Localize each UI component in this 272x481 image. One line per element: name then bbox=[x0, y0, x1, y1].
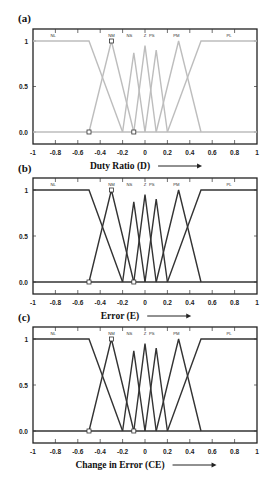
mf-label-ps: PS bbox=[149, 182, 155, 187]
mf-pl bbox=[167, 339, 257, 431]
mf-nl bbox=[33, 339, 123, 431]
y-tick-label: 0.0 bbox=[19, 279, 28, 286]
mf-label-nm: NM bbox=[108, 182, 115, 187]
mf-nm bbox=[89, 41, 134, 132]
x-axis-title: Change in Error (CE) bbox=[75, 460, 164, 471]
mf-label-pl: PL bbox=[226, 33, 232, 38]
mf-pl bbox=[167, 190, 257, 282]
x-tick-label: 0 bbox=[143, 149, 147, 156]
mf-nl bbox=[33, 41, 123, 132]
mf-label-ns: NS bbox=[126, 33, 132, 38]
x-tick-label: -0.2 bbox=[117, 299, 129, 306]
x-tick-label: -0.4 bbox=[95, 149, 107, 156]
mf-nm bbox=[89, 339, 134, 431]
x-tick-label: 1 bbox=[255, 149, 259, 156]
mf-label-nl: NL bbox=[50, 331, 56, 336]
marker-square-icon bbox=[87, 429, 91, 433]
panel-label: (a) bbox=[18, 12, 31, 25]
y-tick-label: 0.0 bbox=[19, 129, 28, 136]
y-tick-label: 0.5 bbox=[19, 83, 28, 90]
x-tick-label: 0.6 bbox=[208, 149, 217, 156]
x-tick-label: -0.6 bbox=[72, 448, 84, 455]
mf-label-pm: PM bbox=[173, 182, 180, 187]
arrow-head-icon bbox=[186, 314, 191, 319]
marker-square-icon bbox=[132, 280, 136, 284]
x-tick-label: 0 bbox=[143, 299, 147, 306]
mf-z bbox=[134, 344, 156, 431]
figure: (a)-1-0.8-0.6-0.4-0.200.20.40.60.810.00.… bbox=[0, 0, 272, 481]
mf-ps bbox=[145, 50, 167, 132]
mf-pl bbox=[167, 41, 257, 132]
x-tick-label: 0.6 bbox=[208, 299, 217, 306]
y-tick-label: 0.5 bbox=[19, 233, 28, 240]
x-tick-label: 0.8 bbox=[230, 448, 239, 455]
mf-label-pl: PL bbox=[226, 182, 232, 187]
x-tick-label: -0.4 bbox=[95, 299, 107, 306]
mf-ps bbox=[145, 348, 167, 431]
marker-square-icon bbox=[132, 130, 136, 134]
mf-label-ps: PS bbox=[149, 33, 155, 38]
panel-b: (b)-1-0.8-0.6-0.4-0.200.20.40.60.810.00.… bbox=[18, 162, 259, 322]
x-tick-label: -0.2 bbox=[117, 448, 129, 455]
x-tick-label: -0.8 bbox=[50, 448, 62, 455]
x-tick-label: -0.6 bbox=[72, 299, 84, 306]
x-tick-label: -0.4 bbox=[95, 448, 107, 455]
mf-ns bbox=[123, 351, 145, 431]
mf-z bbox=[134, 46, 156, 132]
mf-label-pl: PL bbox=[226, 331, 232, 336]
x-tick-label: -1 bbox=[30, 448, 36, 455]
x-tick-label: 1 bbox=[255, 299, 259, 306]
x-tick-label: 0.4 bbox=[185, 448, 194, 455]
x-tick-label: 0.4 bbox=[185, 299, 194, 306]
arrow-head-icon bbox=[212, 463, 217, 468]
panel-label: (b) bbox=[18, 162, 32, 175]
mf-label-ns: NS bbox=[126, 331, 132, 336]
mf-pm bbox=[156, 190, 201, 282]
mf-label-pm: PM bbox=[173, 331, 180, 336]
mf-ns bbox=[123, 53, 145, 132]
mf-label-pm: PM bbox=[173, 33, 180, 38]
mf-label-nm: NM bbox=[108, 33, 115, 38]
panel-a: (a)-1-0.8-0.6-0.4-0.200.20.40.60.810.00.… bbox=[18, 12, 259, 172]
mf-pm bbox=[156, 41, 201, 132]
y-tick-label: 0.0 bbox=[19, 428, 28, 435]
x-tick-label: 1 bbox=[255, 448, 259, 455]
x-tick-label: -0.8 bbox=[50, 299, 62, 306]
x-tick-label: 0 bbox=[143, 448, 147, 455]
mf-label-ps: PS bbox=[149, 331, 155, 336]
x-tick-label: 0.2 bbox=[163, 299, 172, 306]
x-tick-label: 0.4 bbox=[185, 149, 194, 156]
x-axis-title: Duty Ratio (D) bbox=[90, 161, 150, 172]
mf-nm bbox=[89, 190, 134, 282]
y-tick-label: 1 bbox=[24, 38, 28, 45]
marker-square-icon bbox=[109, 39, 113, 43]
mf-label-ns: NS bbox=[126, 182, 132, 187]
mf-label-z: Z bbox=[144, 331, 147, 336]
mf-pm bbox=[156, 339, 201, 431]
marker-square-icon bbox=[109, 188, 113, 192]
x-tick-label: -0.8 bbox=[50, 149, 62, 156]
marker-square-icon bbox=[109, 337, 113, 341]
mf-z bbox=[134, 195, 156, 282]
x-tick-label: -1 bbox=[30, 149, 36, 156]
panel-c: (c)-1-0.8-0.6-0.4-0.200.20.40.60.810.00.… bbox=[18, 311, 259, 471]
mf-ps bbox=[145, 199, 167, 282]
mf-label-nl: NL bbox=[50, 33, 56, 38]
x-tick-label: -0.6 bbox=[72, 149, 84, 156]
x-tick-label: 0.8 bbox=[230, 149, 239, 156]
x-tick-label: 0.8 bbox=[230, 299, 239, 306]
panel-label: (c) bbox=[18, 311, 31, 324]
mf-nl bbox=[33, 190, 123, 282]
marker-square-icon bbox=[87, 280, 91, 284]
marker-square-icon bbox=[87, 130, 91, 134]
x-tick-label: -1 bbox=[30, 299, 36, 306]
y-tick-label: 1 bbox=[24, 187, 28, 194]
x-axis-title: Error (E) bbox=[101, 311, 139, 322]
mf-label-nl: NL bbox=[50, 182, 56, 187]
y-tick-label: 0.5 bbox=[19, 382, 28, 389]
x-tick-label: 0.2 bbox=[163, 149, 172, 156]
mf-label-z: Z bbox=[144, 182, 147, 187]
mf-label-nm: NM bbox=[108, 331, 115, 336]
mf-ns bbox=[123, 202, 145, 282]
x-tick-label: 0.2 bbox=[163, 448, 172, 455]
